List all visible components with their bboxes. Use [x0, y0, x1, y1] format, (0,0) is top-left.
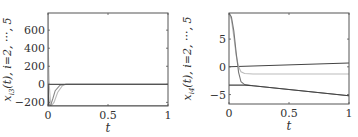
x-tick-label: 0: [45, 109, 52, 122]
series-line-i=3: [48, 84, 168, 106]
series-line-i=2: [48, 13, 168, 106]
y-tick-label: 0: [219, 61, 226, 74]
y-tick-label: −5: [210, 89, 226, 102]
series-group: [48, 13, 168, 106]
chart-left-svg: 00.51−2000200400600txi3(t), i=2, ···, 5: [0, 0, 180, 137]
y-axis-label: xi3(t), i=2, ···, 5: [1, 17, 16, 101]
x-axis-label: t: [106, 121, 111, 135]
y-axis-label: xi4(t), i=2, ···, 5: [181, 16, 196, 100]
plot-frame: [229, 13, 349, 104]
series-group: [229, 13, 349, 96]
x-axis-label: t: [287, 119, 292, 133]
y-tick-label: 0: [38, 78, 45, 91]
y-tick-label: 600: [24, 24, 45, 37]
x-tick-label: 1: [346, 107, 353, 120]
y-tick-label: −200: [15, 96, 45, 109]
plot-frame: [48, 13, 168, 106]
chart-right-svg: 00.51−505txi4(t), i=2, ···, 5: [180, 0, 358, 137]
series-line-i=2: [229, 63, 349, 67]
series-line-i=5: [229, 85, 349, 96]
chart-right: 00.51−505txi4(t), i=2, ···, 5: [180, 0, 358, 137]
x-tick-label: 0: [226, 107, 233, 120]
chart-left: 00.51−2000200400600txi3(t), i=2, ···, 5: [0, 0, 180, 137]
x-tick-label: 1: [165, 109, 172, 122]
series-line-i=5: [48, 84, 168, 106]
series-line-i=4: [229, 13, 349, 96]
y-tick-label: 400: [24, 42, 45, 55]
y-tick-label: 200: [24, 60, 45, 73]
y-tick-label: 5: [219, 33, 226, 46]
